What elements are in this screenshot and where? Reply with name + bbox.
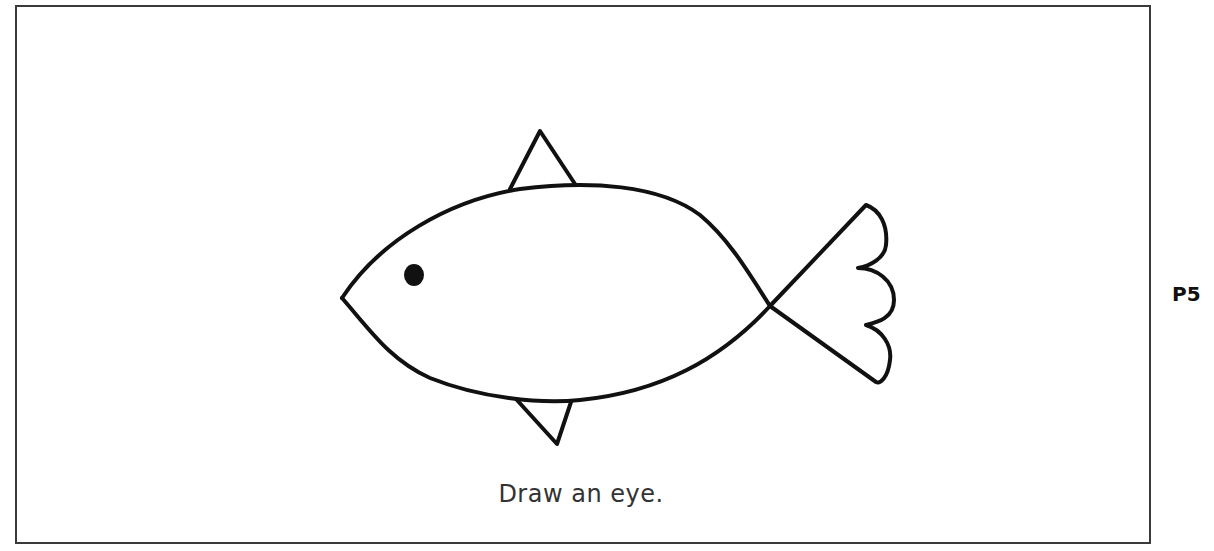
fish-top-fin xyxy=(510,131,575,189)
fish-eye xyxy=(404,264,424,286)
fish-bottom-fin xyxy=(516,399,571,444)
fish-drawing xyxy=(0,0,1214,551)
fish-body-bottom xyxy=(342,298,770,401)
fish-body-top xyxy=(342,185,770,306)
fish-tail xyxy=(770,205,894,382)
page-label: P5 xyxy=(1172,282,1201,306)
instruction-text: Draw an eye. xyxy=(0,480,1162,508)
